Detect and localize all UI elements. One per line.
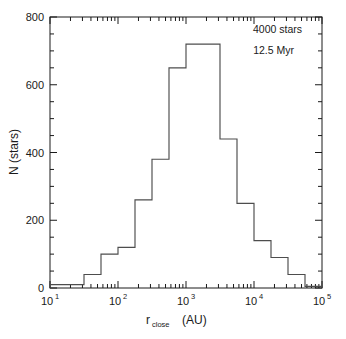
x-tick-mantissa: 10 — [177, 295, 189, 307]
y-tick-label: 400 — [26, 147, 44, 159]
annotation-star-count: 4000 stars — [253, 23, 302, 35]
x-tick-label: 103 — [177, 292, 195, 307]
x-tick-exponent: 5 — [327, 292, 331, 301]
y-axis-minor-ticks — [50, 34, 322, 271]
y-tick-label: 0 — [38, 282, 44, 294]
x-axis-label-subscript: close — [152, 320, 170, 329]
x-axis-label: r close (AU) — [146, 313, 207, 329]
x-tick-exponent: 2 — [123, 292, 127, 301]
x-tick-exponent: 1 — [55, 292, 59, 301]
x-axis-tick-labels: 101102103104105 — [41, 292, 331, 307]
histogram-step-line — [50, 44, 322, 288]
x-tick-exponent: 4 — [259, 292, 263, 301]
histogram-figure: 0200400600800 101102103104105 N (stars) … — [0, 0, 346, 339]
y-axis-tick-labels: 0200400600800 — [26, 11, 44, 294]
x-axis-label-unit: (AU) — [182, 313, 207, 327]
x-tick-mantissa: 10 — [41, 295, 53, 307]
y-tick-label: 600 — [26, 79, 44, 91]
x-tick-mantissa: 10 — [313, 295, 325, 307]
x-axis-minor-ticks — [70, 17, 318, 288]
y-tick-label: 200 — [26, 214, 44, 226]
chart-canvas: 0200400600800 101102103104105 N (stars) … — [0, 0, 346, 339]
y-axis-label: N (stars) — [7, 129, 21, 175]
x-tick-label: 102 — [109, 292, 127, 307]
x-tick-label: 104 — [245, 292, 263, 307]
x-tick-mantissa: 10 — [245, 295, 257, 307]
x-tick-label: 105 — [313, 292, 331, 307]
x-axis-label-base: r — [146, 313, 150, 327]
annotation-age: 12.5 Myr — [253, 44, 294, 56]
x-tick-label: 101 — [41, 292, 59, 307]
y-tick-label: 800 — [26, 11, 44, 23]
x-tick-exponent: 3 — [191, 292, 195, 301]
x-tick-mantissa: 10 — [109, 295, 121, 307]
